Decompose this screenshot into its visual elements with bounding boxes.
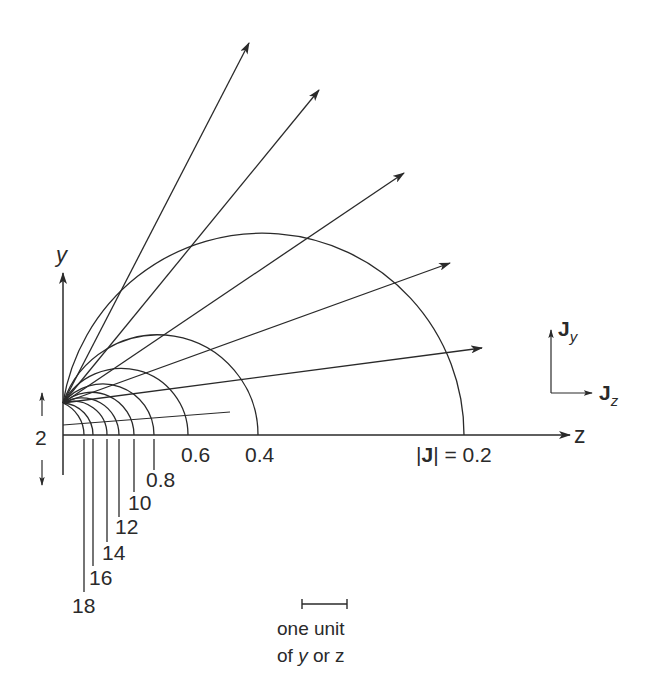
contour-label-0-4: 0.4: [245, 444, 274, 465]
legend-jz-main: J: [599, 381, 611, 404]
contour-arc: [63, 398, 119, 435]
contour-label-16: 16: [89, 567, 112, 588]
contour-arc: [63, 233, 464, 435]
y-axis-label: y: [56, 244, 67, 266]
z-axis-label: z: [574, 424, 586, 447]
contour-label-0-6: 0.6: [181, 444, 210, 465]
legend-jy-label: Jy: [558, 318, 577, 339]
contour-label-10: 10: [128, 492, 151, 513]
j-symbol: J: [421, 443, 433, 466]
scale-caption-or-z: or z: [308, 645, 345, 666]
legend-jz-label: Jz: [599, 382, 618, 403]
contour-label-14: 14: [102, 542, 125, 563]
current-ray-arrow: [63, 43, 249, 403]
legend-jy-sub: y: [570, 328, 578, 345]
dimension-label: 2: [35, 427, 47, 448]
current-density-diagram: [0, 0, 655, 698]
contour-arc: [63, 403, 93, 435]
current-ray-arrow: [63, 348, 482, 403]
scale-caption-line2: of y or z: [277, 646, 345, 665]
current-rays: [63, 43, 482, 403]
scale-caption-y: y: [298, 645, 308, 666]
contour-arc: [63, 403, 84, 435]
scale-caption-line1: one unit: [277, 619, 345, 638]
contour-label-0-2: |J| = 0.2: [416, 444, 492, 465]
scale-bar: [302, 599, 347, 609]
scale-caption-of: of: [277, 645, 298, 666]
contour-label-18: 18: [72, 595, 95, 616]
legend-jy-main: J: [558, 317, 570, 340]
contour-arcs: [63, 233, 464, 435]
contour-label-0-8: 0.8: [146, 469, 175, 490]
abs-value: | = 0.2: [433, 443, 492, 466]
legend-jz-sub: z: [611, 392, 619, 409]
contour-label-12: 12: [115, 516, 138, 537]
